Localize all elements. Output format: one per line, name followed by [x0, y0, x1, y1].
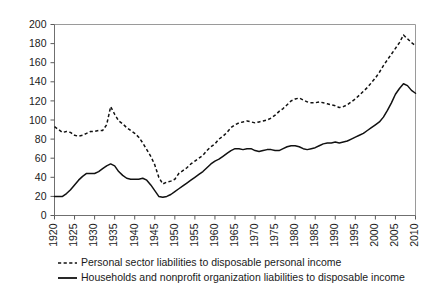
plot-frame	[55, 25, 416, 216]
legend-label-personal-sector: Personal sector liabilities to disposabl…	[81, 256, 341, 268]
x-tick-label: 1935	[107, 223, 119, 247]
x-tick-label: 1965	[228, 223, 240, 247]
y-tick-label: 200	[29, 18, 47, 30]
y-tick-label: 140	[29, 75, 47, 87]
x-axis-ticks: 1920192519301935194019451950195519601965…	[47, 216, 420, 247]
line-chart: 020406080100120140160180200 192019251930…	[0, 0, 442, 295]
y-tick-label: 100	[29, 114, 47, 126]
series-households-nonprofit-line	[55, 84, 416, 198]
x-tick-label: 1975	[268, 223, 280, 247]
y-tick-label: 120	[29, 95, 47, 107]
x-tick-label: 1980	[288, 223, 300, 247]
y-tick-label: 80	[35, 133, 47, 145]
chart-legend: Personal sector liabilities to disposabl…	[58, 256, 405, 283]
y-tick-label: 20	[35, 190, 47, 202]
series-personal-sector-line	[55, 35, 416, 184]
y-tick-label: 160	[29, 56, 47, 68]
x-tick-label: 1920	[47, 223, 59, 247]
x-tick-label: 1955	[188, 223, 200, 247]
chart-figure: 020406080100120140160180200 192019251930…	[0, 0, 442, 295]
y-tick-label: 40	[35, 171, 47, 183]
x-tick-label: 1945	[148, 223, 160, 247]
x-tick-label: 1940	[128, 223, 140, 247]
x-tick-label: 1990	[328, 223, 340, 247]
x-tick-label: 1995	[348, 223, 360, 247]
x-tick-label: 1960	[208, 223, 220, 247]
y-tick-label: 60	[35, 152, 47, 164]
x-tick-label: 1985	[308, 223, 320, 247]
data-series-layer	[55, 35, 416, 197]
x-tick-label: 2005	[388, 223, 400, 247]
legend-label-households-nonprofit: Households and nonprofit organization li…	[81, 271, 405, 283]
x-tick-label: 2000	[368, 223, 380, 247]
x-tick-label: 1930	[87, 223, 99, 247]
x-tick-label: 1950	[168, 223, 180, 247]
x-tick-label: 1970	[248, 223, 260, 247]
y-tick-label: 0	[41, 209, 47, 221]
x-tick-label: 1925	[67, 223, 79, 247]
y-axis-ticks: 020406080100120140160180200	[29, 18, 55, 221]
x-tick-label: 2010	[408, 223, 420, 247]
y-tick-label: 180	[29, 37, 47, 49]
